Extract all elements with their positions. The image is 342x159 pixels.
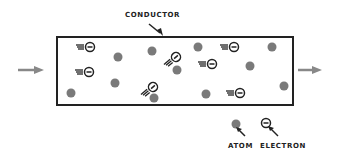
electron-icon [76, 43, 95, 52]
atom-icon [148, 47, 157, 56]
atoms-group [67, 43, 289, 103]
atom-icon [202, 90, 211, 99]
atom-icon [246, 62, 255, 71]
electrons-group [75, 43, 245, 100]
atom-icon [67, 89, 76, 98]
atom-icon [268, 43, 277, 52]
electron-icon [226, 89, 245, 98]
atom-icon [114, 53, 123, 62]
electron-icon [198, 60, 217, 69]
conductor-label: CONDUCTOR [125, 11, 180, 19]
atom-icon [111, 79, 120, 88]
electron-icon [220, 43, 239, 52]
legend-atom-icon [232, 120, 241, 129]
electron-label: ELECTRON [260, 142, 306, 150]
conductor-diagram [0, 0, 342, 159]
legend-electron-pointer-icon [268, 126, 278, 136]
conductor-pointer-arrow-icon [149, 24, 163, 36]
current-out-arrow-icon [298, 66, 322, 74]
electron-icon [75, 68, 94, 77]
atom-icon [280, 82, 289, 91]
legend-electron-icon [262, 119, 271, 128]
current-in-arrow-icon [18, 66, 44, 74]
atom-icon [194, 43, 203, 52]
legend-atom-pointer-icon [236, 127, 245, 136]
atom-icon [150, 94, 159, 103]
atom-label: ATOM [228, 142, 253, 150]
atom-icon [173, 66, 182, 75]
